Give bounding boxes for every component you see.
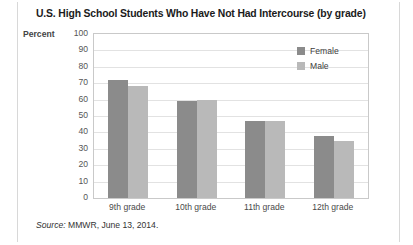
bar-group (177, 34, 217, 198)
y-axis-ticks: 0102030405060708090100 (60, 33, 88, 199)
bar-group (245, 34, 285, 198)
source-label: Source: (36, 220, 66, 230)
y-axis-tick-label: 70 (62, 77, 88, 87)
bar-female-12th-grade (314, 136, 334, 198)
legend-item-female: Female (297, 44, 367, 57)
y-axis-tick-label: 0 (62, 192, 88, 202)
bar-group (108, 34, 148, 198)
bar-chart: Percent 0102030405060708090100 FemaleMal… (0, 0, 413, 245)
x-axis-tick-label: 12th grade (293, 202, 373, 212)
y-axis-tick-label: 50 (62, 110, 88, 120)
bar-male-9th-grade (128, 86, 148, 198)
legend-swatch-female (297, 47, 305, 55)
bar-female-11th-grade (245, 121, 265, 198)
legend-label: Male (310, 61, 329, 71)
legend-item-male: Male (297, 59, 367, 72)
bar-female-9th-grade (108, 80, 128, 198)
chart-legend: FemaleMale (297, 44, 367, 74)
y-axis-tick-label: 90 (62, 44, 88, 54)
bar-male-12th-grade (334, 141, 354, 198)
source-note: Source: MMWR, June 13, 2014. (36, 220, 158, 230)
y-axis-tick-label: 30 (62, 143, 88, 153)
bar-male-10th-grade (197, 100, 217, 198)
legend-label: Female (310, 46, 339, 56)
y-axis-tick-label: 80 (62, 61, 88, 71)
y-axis-tick-label: 20 (62, 159, 88, 169)
bar-male-11th-grade (265, 121, 285, 198)
y-axis-tick-label: 40 (62, 126, 88, 136)
bar-female-10th-grade (177, 101, 197, 198)
y-axis-tick-label: 100 (62, 28, 88, 38)
y-axis-tick-label: 10 (62, 176, 88, 186)
source-text: MMWR, June 13, 2014. (68, 220, 158, 230)
legend-swatch-male (297, 62, 305, 70)
y-axis-title: Percent (23, 29, 55, 39)
y-axis-tick-label: 60 (62, 94, 88, 104)
